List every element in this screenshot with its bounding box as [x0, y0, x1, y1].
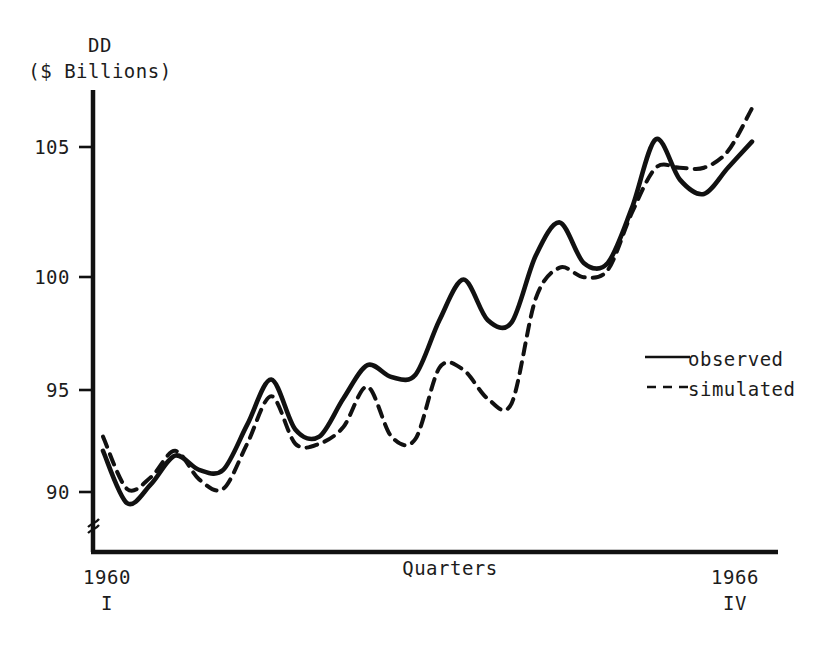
x-axis-start-year: 1960: [47, 566, 167, 588]
y-tick-label-95: 95: [0, 379, 70, 401]
chart-figure: DD ($ Billions) 105 100 95 90 Quarters 1…: [0, 0, 828, 645]
chart-canvas: [0, 0, 828, 645]
y-axis-title-line1: DD: [0, 34, 200, 56]
x-axis-start-quarter: I: [47, 592, 167, 614]
legend-label-observed: observed: [688, 348, 784, 370]
legend-label-simulated: simulated: [688, 378, 795, 400]
x-axis-title: Quarters: [350, 557, 550, 579]
y-tick-label-105: 105: [0, 136, 70, 158]
y-tick-label-90: 90: [0, 481, 70, 503]
series-line-observed: [103, 139, 752, 504]
y-axis-title-line2: ($ Billions): [0, 60, 200, 82]
y-tick-label-100: 100: [0, 266, 70, 288]
x-axis-end-quarter: IV: [675, 592, 795, 614]
series-line-simulated: [103, 108, 752, 490]
x-axis-end-year: 1966: [675, 566, 795, 588]
